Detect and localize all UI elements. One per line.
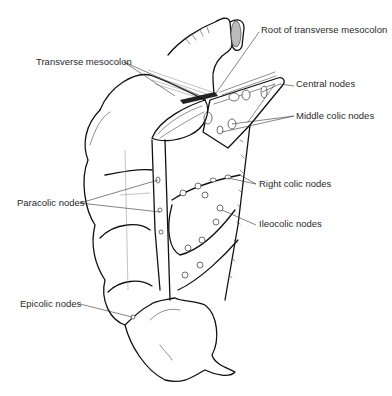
label-paracolic-nodes: Paracolic nodes xyxy=(17,198,85,208)
label-ileocolic-nodes: Ileocolic nodes xyxy=(259,219,322,229)
hepatic-flexure xyxy=(90,75,208,145)
label-middle-colic-nodes: Middle colic nodes xyxy=(296,111,374,121)
transverse-mesocolon xyxy=(148,70,218,104)
label-right-colic-nodes: Right colic nodes xyxy=(259,179,331,189)
label-central-nodes: Central nodes xyxy=(296,79,355,89)
mesentery-lower xyxy=(165,125,250,300)
cecum xyxy=(125,298,235,381)
anatomical-diagram: Root of transverse mesocolon Transverse … xyxy=(0,0,392,396)
ascending-colon xyxy=(84,110,163,325)
label-transverse-mesocolon: Transverse mesocolon xyxy=(36,57,132,67)
transverse-colon-upper xyxy=(168,18,244,95)
label-epicolic-nodes: Epicolic nodes xyxy=(20,299,81,309)
mesentery-upper xyxy=(203,78,284,148)
label-root-of-transverse-mesocolon: Root of transverse mesocolon xyxy=(261,25,387,35)
